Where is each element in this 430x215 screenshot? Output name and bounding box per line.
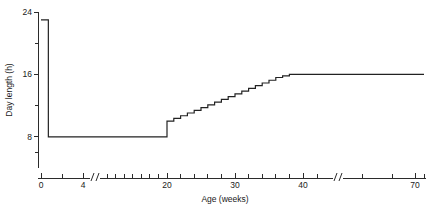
y-tick-label: 8	[27, 132, 32, 142]
x-axis-title: Age (weeks)	[201, 194, 248, 204]
chart-container: 24168 Day length (h) 0420304070 Age (wee…	[0, 0, 430, 215]
x-tick-label: 20	[162, 180, 172, 190]
y-tick-label: 24	[23, 7, 33, 17]
x-tick-label: 0	[39, 180, 44, 190]
y-axis-title: Day length (h)	[4, 63, 14, 117]
day-length-step-chart: 24168 Day length (h) 0420304070 Age (wee…	[0, 0, 430, 215]
x-tick-label: 30	[230, 180, 240, 190]
x-tick-label: 40	[298, 180, 308, 190]
x-tick-label: 4	[81, 180, 86, 190]
x-tick-label: 70	[410, 180, 420, 190]
y-tick-label: 16	[23, 69, 33, 79]
chart-background	[0, 0, 430, 215]
